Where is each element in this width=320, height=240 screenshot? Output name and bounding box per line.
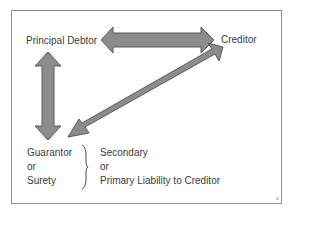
- liability-line-3: Primary Liability to Creditor: [100, 174, 220, 188]
- guarantor-line-2: or: [27, 160, 72, 174]
- corner-mark: [276, 197, 279, 200]
- node-guarantor-or-surety: Guarantor or Surety: [27, 146, 72, 188]
- liability-line-2: or: [100, 160, 220, 174]
- node-principal-debtor: Principal Debtor: [26, 35, 97, 47]
- brace-icon: [82, 145, 88, 189]
- double-arrow-creditor-guarantor-icon: [68, 43, 223, 137]
- guarantor-line-1: Guarantor: [27, 146, 72, 160]
- double-arrow-debtor-guarantor-icon: [35, 52, 61, 140]
- double-arrow-debtor-creditor-icon: [101, 27, 214, 53]
- guarantor-line-3: Surety: [27, 174, 72, 188]
- liability-line-1: Secondary: [100, 146, 220, 160]
- liability-note: Secondary or Primary Liability to Credit…: [100, 146, 220, 188]
- node-creditor: Creditor: [221, 34, 257, 46]
